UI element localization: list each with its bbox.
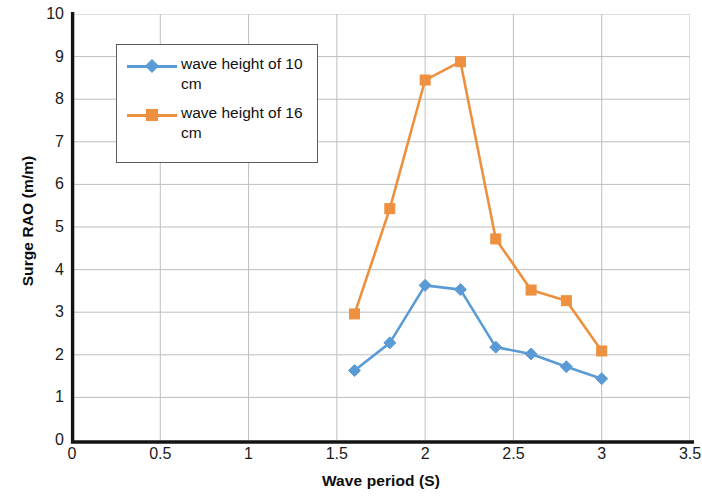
data-point-marker: [561, 296, 571, 306]
legend-entry-0: wave height of 10 cm: [117, 54, 317, 94]
data-point-marker: [420, 75, 430, 85]
data-point-marker: [560, 361, 572, 373]
surge-rao-line-chart: Surge RAO (m/m) 012345678910 00.511.522.…: [0, 0, 702, 496]
legend-swatch-series-1: [127, 105, 177, 126]
y-tick-label: 2: [30, 346, 64, 364]
y-tick-label: 9: [30, 48, 64, 66]
y-tick-label: 1: [30, 388, 64, 406]
series-0: [349, 279, 608, 384]
data-point-marker: [455, 57, 465, 67]
legend: wave height of 10 cm wave height of 16 c…: [116, 44, 318, 163]
x-tick-label: 3.5: [660, 445, 702, 463]
y-tick-label: 7: [30, 133, 64, 151]
data-point-marker: [597, 346, 607, 356]
data-point-marker: [490, 341, 502, 353]
x-tick-label: 3: [572, 445, 632, 463]
data-point-marker: [350, 309, 360, 319]
x-tick-label: 0.5: [130, 445, 190, 463]
series-1: [350, 57, 607, 356]
x-tick-label: 0: [42, 445, 102, 463]
y-tick-label: 8: [30, 90, 64, 108]
data-point-marker: [385, 204, 395, 214]
legend-label-series-0: wave height of 10 cm: [181, 54, 309, 94]
y-tick-label: 5: [30, 218, 64, 236]
y-axis-tick-labels: 012345678910: [24, 0, 64, 440]
y-tick-label: 6: [30, 175, 64, 193]
data-point-marker: [525, 348, 537, 360]
legend-label-series-1: wave height of 16 cm: [181, 103, 309, 143]
y-tick-label: 10: [30, 5, 64, 23]
data-point-marker: [419, 279, 431, 291]
y-tick-label: 3: [30, 303, 64, 321]
legend-swatch-series-0: [127, 56, 177, 77]
x-tick-label: 1: [219, 445, 279, 463]
legend-entry-1: wave height of 16 cm: [117, 103, 317, 143]
x-tick-label: 2: [395, 445, 455, 463]
data-point-marker: [526, 285, 536, 295]
data-point-marker: [596, 373, 608, 385]
square-marker-icon: [146, 109, 158, 121]
x-tick-label: 1.5: [307, 445, 367, 463]
y-tick-label: 4: [30, 261, 64, 279]
data-point-marker: [491, 234, 501, 244]
x-axis-tick-labels: 00.511.522.533.5: [0, 445, 702, 471]
data-point-marker: [454, 284, 466, 296]
x-tick-label: 2.5: [483, 445, 543, 463]
x-axis-title: Wave period (S): [72, 472, 690, 490]
diamond-marker-icon: [145, 59, 159, 73]
